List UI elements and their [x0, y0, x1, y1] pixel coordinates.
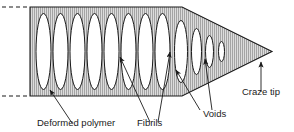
label-voids: Voids — [203, 108, 226, 119]
void-ellipse — [138, 14, 153, 90]
void-ellipse — [175, 21, 188, 83]
void-ellipse — [36, 14, 51, 90]
void-ellipse — [219, 42, 225, 62]
void-ellipse — [70, 14, 85, 90]
void-ellipse — [155, 14, 170, 90]
void-ellipse — [104, 14, 119, 90]
void-ellipse — [121, 14, 136, 90]
label-deformed-polymer: Deformed polymer — [37, 117, 115, 128]
void-ellipse — [87, 14, 102, 90]
crack-plane-dashes — [2, 7, 30, 96]
craze-diagram-figure: Deformed polymer Fibrils Voids Craze tip — [0, 0, 294, 132]
label-fibrils: Fibrils — [137, 117, 163, 128]
void-ellipse — [206, 36, 214, 68]
label-craze-tip: Craze tip — [242, 86, 280, 97]
void-ellipse — [53, 14, 68, 90]
void-ellipse — [192, 29, 202, 75]
diagram-canvas: Deformed polymer Fibrils Voids Craze tip — [0, 0, 294, 132]
